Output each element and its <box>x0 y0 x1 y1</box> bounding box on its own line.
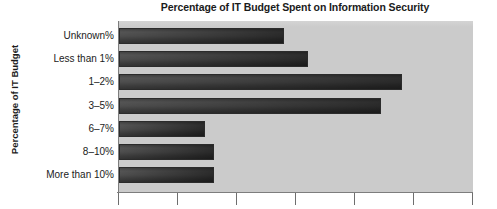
bar[interactable] <box>119 51 308 67</box>
y-axis-tick-label: 8–10% <box>0 146 114 157</box>
x-axis-tick <box>295 193 296 205</box>
y-axis-tick-labels: Unknown%Less than 1%1–2%3–5%6–7%8–10%Mor… <box>0 21 114 192</box>
x-axis-tick <box>177 193 178 205</box>
x-axis-tick <box>236 193 237 205</box>
bottom-rule <box>0 207 497 209</box>
x-axis-tick <box>354 193 355 205</box>
plot-inner <box>119 21 473 192</box>
y-axis-tick-label: 6–7% <box>0 123 114 134</box>
y-axis-tick-label: 1–2% <box>0 76 114 87</box>
y-axis-tick-label: Unknown% <box>0 30 114 41</box>
x-axis-tick <box>118 193 119 205</box>
y-axis-tick-label: More than 10% <box>0 169 114 180</box>
x-axis-tick <box>413 193 414 205</box>
x-axis-tick <box>472 193 473 205</box>
bar[interactable] <box>119 121 205 137</box>
bar[interactable] <box>119 144 214 160</box>
bar[interactable] <box>119 167 214 183</box>
plot-area <box>118 21 473 192</box>
bar[interactable] <box>119 74 402 90</box>
chart-title: Percentage of IT Budget Spent on Informa… <box>118 1 472 13</box>
bar-chart: Percentage of IT Budget Spent on Informa… <box>0 0 497 209</box>
bar[interactable] <box>119 28 284 44</box>
y-axis-tick-label: Less than 1% <box>0 53 114 64</box>
y-axis-tick-label: 3–5% <box>0 100 114 111</box>
bar[interactable] <box>119 98 381 114</box>
